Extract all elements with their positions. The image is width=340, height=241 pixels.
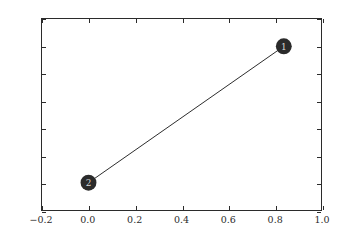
plot-axes: 21	[41, 18, 322, 211]
x-tick-label: 0.2	[127, 215, 142, 225]
x-tick-mark	[42, 206, 43, 210]
y-tick-mark	[42, 184, 46, 185]
x-tick-mark	[276, 19, 277, 23]
figure-canvas: 21 −0.20.00.20.40.60.81.0 −0.20.00.20.40…	[0, 0, 340, 241]
x-tick-label: 0.4	[174, 215, 189, 225]
y-tick-mark	[42, 47, 46, 48]
graph-node-label: 1	[281, 42, 287, 52]
y-tick-mark	[42, 157, 46, 158]
graph-edge	[89, 46, 284, 182]
x-tick-label: 0.0	[80, 215, 95, 225]
y-tick-mark	[42, 19, 46, 20]
edge-layer	[89, 46, 284, 182]
y-tick-mark	[317, 74, 321, 75]
plot-drawing-area: 21	[42, 19, 321, 210]
y-tick-mark	[42, 102, 46, 103]
x-tick-mark	[229, 206, 230, 210]
y-tick-mark	[42, 129, 46, 130]
y-tick-mark	[317, 47, 321, 48]
x-tick-mark	[229, 19, 230, 23]
x-tick-label: 0.6	[221, 215, 236, 225]
x-tick-label: 1.0	[314, 215, 329, 225]
y-tick-mark	[42, 212, 46, 213]
y-tick-mark	[317, 212, 321, 213]
y-tick-mark	[317, 19, 321, 20]
x-tick-mark	[136, 206, 137, 210]
x-tick-mark	[89, 19, 90, 23]
x-tick-mark	[183, 19, 184, 23]
y-tick-mark	[317, 157, 321, 158]
graph-node-label: 2	[86, 178, 92, 188]
x-tick-label: 0.8	[268, 215, 283, 225]
x-tick-mark	[276, 206, 277, 210]
y-tick-mark	[317, 129, 321, 130]
x-tick-mark	[89, 206, 90, 210]
x-tick-mark	[183, 206, 184, 210]
y-tick-mark	[42, 74, 46, 75]
y-tick-mark	[317, 102, 321, 103]
y-tick-mark	[317, 184, 321, 185]
x-tick-label: −0.2	[29, 215, 52, 225]
x-tick-mark	[323, 206, 324, 210]
x-tick-mark	[323, 19, 324, 23]
x-tick-mark	[136, 19, 137, 23]
